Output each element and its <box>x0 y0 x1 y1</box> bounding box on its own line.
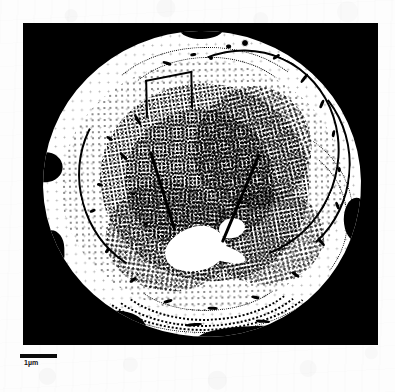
scan-artifact-circle <box>241 39 249 47</box>
scale-bar-label: 1µm <box>20 359 57 367</box>
surface-fleck <box>208 307 218 310</box>
scale-bar <box>20 354 57 358</box>
figure-root: 1µm <box>0 0 395 392</box>
surface-fleck <box>337 167 341 172</box>
scale-bar-group: 1µm <box>20 354 57 367</box>
surface-fleck <box>226 44 231 48</box>
micrograph-panel <box>23 23 378 345</box>
surface-fleck <box>144 222 148 225</box>
surface-fleck <box>131 192 135 195</box>
scan-artifact-dot <box>209 56 213 60</box>
rim-notch <box>40 152 63 183</box>
